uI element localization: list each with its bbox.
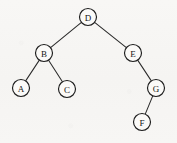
node-label-b: B [41,49,47,59]
node-layer: DBEACGF [13,9,165,131]
tree-edge-d-e [95,22,127,47]
tree-edge-g-f [145,96,153,114]
edge-layer [26,22,153,114]
node-label-c: C [64,85,70,95]
tree-node-c: C [59,81,76,98]
tree-edge-b-a [26,60,40,81]
tree-node-d: D [80,9,97,26]
node-label-a: A [18,84,25,94]
tree-diagram-screenshot: - - - - - DBEACGF [0,0,177,143]
tree-node-f: F [134,114,151,131]
tree-edge-e-g [138,60,152,81]
tree-edge-b-c [49,60,63,82]
binary-tree-graphic: DBEACGF [0,0,177,143]
node-label-f: F [139,118,144,128]
tree-node-e: E [125,45,142,62]
node-label-g: G [153,84,160,94]
tree-node-b: B [36,45,53,62]
node-label-e: E [130,49,136,59]
tree-edge-d-b [51,22,82,47]
tree-node-g: G [148,80,165,97]
tree-node-a: A [13,80,30,97]
node-label-d: D [85,13,92,23]
